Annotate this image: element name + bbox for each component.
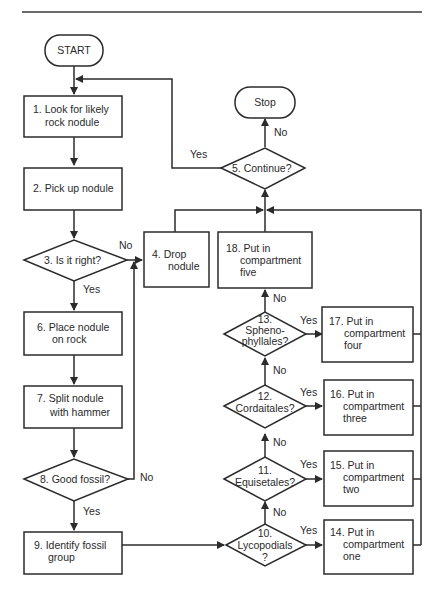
n7-line1: 7. Split nodule	[37, 392, 104, 404]
n6-line2: on rock	[52, 333, 87, 345]
n8-line1: 8. Good fossil?	[40, 473, 110, 485]
process-n6: 6. Place nodule on rock	[24, 312, 122, 355]
process-n14: 14. Put in compartment one	[324, 520, 413, 574]
n16-line1: 16. Put in	[330, 388, 375, 400]
edge-n4-n5	[175, 210, 263, 232]
n3-line1: 3. Is it right?	[44, 254, 101, 266]
process-n1: 1. Look for likely rock nodule	[24, 96, 122, 137]
n12-line1: 12.	[258, 390, 273, 402]
process-n9: 9. Identify fossil group	[24, 532, 122, 574]
stop-label: Stop	[254, 96, 276, 108]
stop-terminal: Stop	[235, 87, 295, 118]
n18-line2: compartment	[240, 254, 301, 266]
label-n12-yes: Yes	[300, 386, 317, 398]
n11-line1: 11.	[258, 464, 272, 476]
decision-n13: 13. Spheno- phyllales?	[224, 312, 306, 356]
n18-line1: 18. Put in	[226, 242, 271, 254]
n17-line1: 17. Put in	[329, 315, 374, 327]
decision-n3: 3. Is it right?	[24, 240, 127, 281]
decision-n8: 8. Good fossil?	[24, 459, 128, 501]
n4-line2: nodule	[168, 260, 200, 272]
flowchart: START Stop 1. Look for likely rock nodul…	[0, 0, 442, 593]
label-n10-no: No	[273, 506, 287, 518]
process-n7: 7. Split nodule with hammer	[24, 386, 122, 428]
label-n11-yes: Yes	[300, 458, 317, 470]
decision-n10: 10. Lycopodials ?	[226, 524, 306, 566]
n10-line2: Lycopodials	[237, 539, 292, 551]
process-n18: 18. Put in compartment five	[218, 232, 312, 288]
n2-line1: 2. Pick up nodule	[33, 182, 114, 194]
label-n5-no: No	[274, 126, 288, 138]
n5-line1: 5. Continue?	[232, 162, 292, 174]
label-n13-no: No	[273, 292, 287, 304]
n12-line2: Cordaitales?	[236, 402, 295, 414]
edge-n8-n4	[128, 262, 134, 479]
n1-line1: 1. Look for likely	[33, 103, 110, 115]
start-terminal: START	[45, 35, 103, 66]
n14-line3: one	[343, 550, 361, 562]
n16-line2: compartment	[343, 400, 404, 412]
process-n17: 17. Put in compartment four	[322, 307, 413, 362]
label-n3-yes: Yes	[83, 283, 100, 295]
label-n11-no: No	[273, 436, 287, 448]
n7-line2: with hammer	[49, 406, 111, 418]
n18-line3: five	[240, 266, 257, 278]
label-n12-no: No	[273, 364, 287, 376]
n1-line2: rock nodule	[45, 116, 99, 128]
n14-line2: compartment	[343, 538, 404, 550]
n10-line1: 10.	[258, 527, 273, 539]
n16-line3: three	[343, 412, 367, 424]
label-n3-no: No	[119, 239, 133, 251]
n17-line3: four	[344, 339, 363, 351]
decision-n5: 5. Continue?	[221, 148, 305, 189]
process-n16: 16. Put in compartment three	[324, 380, 413, 435]
n9-line1: 9. Identify fossil	[34, 539, 106, 551]
process-n2: 2. Pick up nodule	[24, 168, 122, 210]
n15-line1: 15. Put in	[330, 459, 375, 471]
n4-line1: 4. Drop	[152, 248, 187, 260]
process-n15: 15. Put in compartment two	[324, 451, 413, 506]
n15-line2: compartment	[343, 471, 404, 483]
n10-line3: ?	[262, 551, 268, 563]
label-n8-no: No	[140, 471, 154, 483]
n13-line3: phyllales?	[242, 335, 289, 347]
n15-line3: two	[343, 483, 360, 495]
process-n4: 4. Drop nodule	[144, 232, 209, 287]
label-n10-yes: Yes	[300, 524, 317, 536]
label-n8-yes: Yes	[83, 505, 100, 517]
n14-line1: 14. Put in	[330, 526, 375, 538]
n17-line2: compartment	[344, 327, 405, 339]
decision-n12: 12. Cordaitales?	[224, 385, 306, 428]
label-n5-yes: Yes	[190, 148, 207, 160]
label-n13-yes: Yes	[300, 314, 317, 326]
decision-n11: 11. Equisetales?	[224, 457, 306, 501]
start-label: START	[57, 44, 91, 56]
n11-line2: Equisetales?	[235, 476, 295, 488]
n9-line2: group	[48, 551, 75, 563]
n6-line1: 6. Place nodule	[37, 321, 110, 333]
